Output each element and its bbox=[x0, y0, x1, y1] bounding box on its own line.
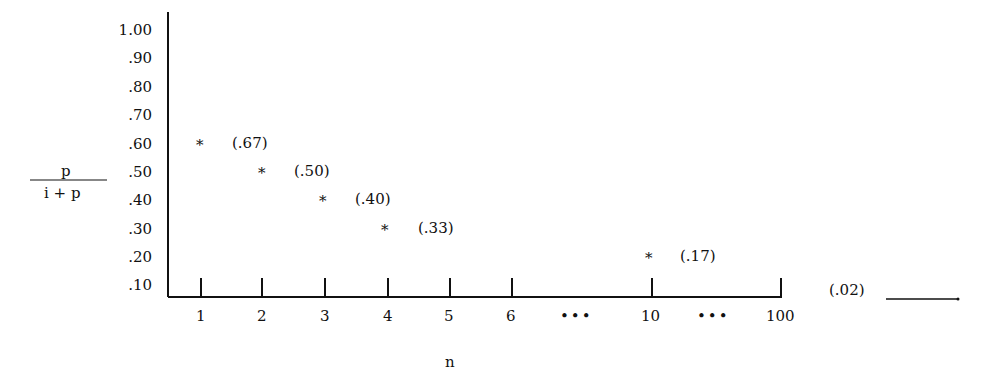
y-tick-label: .40 bbox=[92, 193, 152, 208]
point-marker: * bbox=[381, 223, 389, 238]
point-label: (.40) bbox=[355, 192, 391, 207]
x-tick-label: 10 bbox=[641, 309, 660, 324]
y-axis-label-denominator: i + p bbox=[44, 186, 81, 201]
x-tick-label: 5 bbox=[444, 309, 454, 324]
point-label: (.50) bbox=[294, 164, 330, 179]
x-tick-label: 4 bbox=[383, 309, 393, 324]
point-marker: * bbox=[319, 194, 327, 209]
y-tick-label: .30 bbox=[92, 222, 152, 237]
point-label: (.17) bbox=[680, 249, 716, 264]
point-marker: * bbox=[645, 251, 653, 266]
x-axis-label: n bbox=[445, 355, 455, 370]
x-tick-marks bbox=[201, 278, 781, 297]
y-tick-label: .50 bbox=[92, 165, 152, 180]
y-axis-label-numerator: p bbox=[61, 164, 71, 179]
y-tick-label: .60 bbox=[92, 137, 152, 152]
y-tick-label: 1.00 bbox=[92, 23, 152, 38]
x-tick-label: 1 bbox=[196, 309, 206, 324]
point-marker: * bbox=[258, 166, 266, 181]
x-tick-label: 6 bbox=[506, 309, 516, 324]
point-label: (.33) bbox=[418, 221, 454, 236]
x-tick-label: 100 bbox=[766, 309, 795, 324]
y-tick-label: .90 bbox=[92, 51, 152, 66]
point-label: (.02) bbox=[829, 283, 865, 298]
x-tick-label-ellipsis: ••• bbox=[697, 309, 730, 324]
x-tick-label-ellipsis: ••• bbox=[560, 309, 593, 324]
y-tick-label: .80 bbox=[92, 80, 152, 95]
point-marker: * bbox=[196, 138, 204, 153]
x-tick-label: 2 bbox=[257, 309, 267, 324]
y-tick-label: .20 bbox=[92, 250, 152, 265]
y-tick-label: .70 bbox=[92, 108, 152, 123]
y-tick-label: .10 bbox=[92, 278, 152, 293]
point-label: (.67) bbox=[232, 136, 268, 151]
x-tick-label: 3 bbox=[320, 309, 330, 324]
